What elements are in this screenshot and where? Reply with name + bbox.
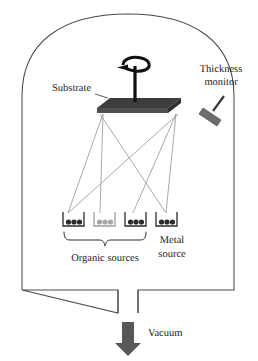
- metal-source-label-line1: Metal: [160, 235, 185, 246]
- organic-sources-brace: [64, 232, 146, 246]
- thickness-monitor-device: [199, 96, 224, 126]
- substrate-label: Substrate: [52, 83, 91, 94]
- substrate-holder: [97, 66, 181, 113]
- flux-line: [166, 114, 176, 213]
- thickness-monitor-head: [199, 108, 221, 126]
- vacuum-arrow-icon: [115, 322, 141, 356]
- source-crucible-metal: [156, 212, 177, 226]
- substrate-plate-front-face: [97, 108, 168, 113]
- flux-line: [68, 114, 103, 213]
- source-crucible-organic-1: [63, 212, 84, 226]
- source-crucible-organic-3: [125, 212, 146, 226]
- rotation-arrow-icon: [117, 57, 149, 71]
- chamber-diagram-canvas: Substrate Thickness monitor Organic sour…: [0, 0, 258, 361]
- thickness-monitor-label-line1: Thickness: [200, 64, 243, 75]
- organic-sources-label: Organic sources: [71, 253, 139, 264]
- chamber-outlet-pipe: [118, 290, 138, 313]
- substrate-leader-line: [95, 94, 108, 98]
- substrate-plate-top-face: [97, 98, 181, 108]
- flux-lines-group: [68, 114, 178, 213]
- metal-source-label-line2: source: [158, 249, 186, 260]
- source-crucible-organic-2: [94, 212, 115, 226]
- flux-line: [100, 114, 166, 213]
- thickness-monitor-label-line2: monitor: [204, 77, 238, 88]
- evaporation-chamber-figure: Substrate Thickness monitor Organic sour…: [0, 0, 258, 361]
- thickness-monitor-stem: [213, 96, 224, 111]
- flux-line: [100, 114, 103, 213]
- vacuum-label: Vacuum: [148, 328, 182, 339]
- rotation-arrow-head: [117, 65, 128, 71]
- flux-line: [133, 114, 176, 213]
- flux-line: [68, 114, 178, 213]
